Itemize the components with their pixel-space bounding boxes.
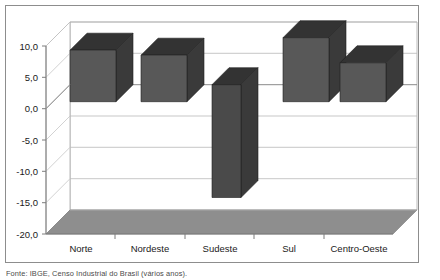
x-tick-label-nordeste: Nordeste xyxy=(131,243,170,254)
y-tick-label: 0,0 xyxy=(25,103,38,114)
bar-centro-oeste[interactable] xyxy=(340,46,403,102)
x-tick-label-sudeste: Sudeste xyxy=(203,243,238,254)
x-tick-label-sul: Sul xyxy=(282,243,296,254)
x-axis-ticks xyxy=(46,234,393,239)
y-tick-label: -5,0 xyxy=(22,135,38,146)
y-tick-label: -15,0 xyxy=(16,197,38,208)
y-axis-tick-labels: 10,0 5,0 0,0 -5,0 -10,0 -15,0 -20,0 xyxy=(16,41,38,240)
y-tick-label: 5,0 xyxy=(25,72,38,83)
x-axis-tick-labels: Norte Nordeste Sudeste Sul Centro-Oeste xyxy=(69,243,387,254)
y-tick-label: 10,0 xyxy=(20,41,39,52)
bar-sul[interactable] xyxy=(283,21,346,102)
y-tick-label: -20,0 xyxy=(16,229,38,240)
x-tick-label-norte: Norte xyxy=(69,243,92,254)
chart-floor xyxy=(46,210,417,234)
y-tick-label: -10,0 xyxy=(16,166,38,177)
y-axis xyxy=(42,46,46,234)
bar-nordeste[interactable] xyxy=(141,38,204,101)
bar-sudeste[interactable] xyxy=(212,68,258,198)
figure-container: 10,0 5,0 0,0 -5,0 -10,0 -15,0 -20,0 xyxy=(0,0,440,280)
bar-norte[interactable] xyxy=(70,33,133,102)
figure-source-caption: Fonte: IBGE, Censo Industrial do Brasil … xyxy=(6,268,436,280)
x-tick-label-centro-oeste: Centro-Oeste xyxy=(330,243,387,254)
chart-canvas: 10,0 5,0 0,0 -5,0 -10,0 -15,0 -20,0 xyxy=(0,0,440,280)
bar-chart-svg: 10,0 5,0 0,0 -5,0 -10,0 -15,0 -20,0 xyxy=(0,0,440,280)
